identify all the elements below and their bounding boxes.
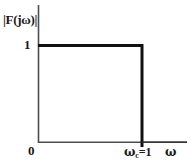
origin-label: 0: [28, 144, 35, 157]
cutoff-value: =1: [139, 145, 151, 159]
x-tick-label-cutoff: ωc=1: [124, 146, 151, 160]
y-tick-label-one: 1: [24, 38, 31, 51]
y-axis-label: |F(jω)|: [3, 13, 37, 26]
figure-container: |F(jω)| 1 0 ωc=1 ω: [0, 0, 192, 164]
x-axis-label: ω: [165, 146, 176, 158]
cutoff-omega-symbol: ω: [124, 145, 135, 159]
